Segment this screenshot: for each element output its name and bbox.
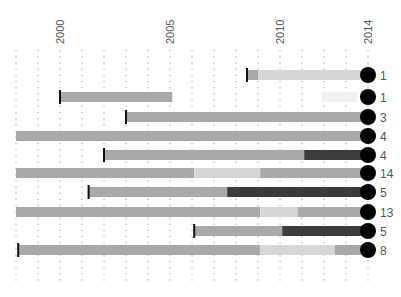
- bar-segment-base: [16, 168, 194, 178]
- timeline-row: 1: [59, 89, 387, 105]
- bar-segment-base: [260, 168, 368, 178]
- end-dot: [360, 147, 376, 163]
- timeline-row: 8: [17, 242, 387, 258]
- end-dot: [360, 223, 376, 239]
- bar-segment-dark: [227, 187, 368, 197]
- start-marker: [125, 110, 127, 124]
- bar-segment-dark: [282, 226, 368, 236]
- end-dot: [360, 242, 376, 258]
- row-count-label: 3: [380, 111, 387, 125]
- year-label-2014: 2014: [362, 20, 374, 44]
- end-dot: [360, 165, 376, 181]
- end-dot: [360, 89, 376, 105]
- bar-segment-dark: [304, 150, 368, 160]
- bar-segment-base: [16, 207, 260, 217]
- timeline-row: 5: [193, 223, 387, 239]
- bar-segment-base: [60, 92, 172, 102]
- start-marker: [246, 68, 248, 82]
- timeline-row: 5: [88, 184, 387, 200]
- row-count-label: 1: [380, 69, 387, 83]
- bar-segment-faint: [322, 92, 357, 102]
- end-dot: [360, 67, 376, 83]
- timeline-row: 13: [16, 204, 394, 220]
- bar-segment-base: [298, 207, 368, 217]
- timeline-row: 4: [103, 147, 387, 163]
- end-dot: [360, 128, 376, 144]
- row-count-label: 5: [380, 225, 387, 239]
- end-dot: [360, 109, 376, 125]
- bar-segment-base: [18, 245, 260, 255]
- timeline-row: 1: [246, 67, 387, 83]
- bar-segment-base: [16, 131, 368, 141]
- start-marker: [59, 90, 61, 104]
- bar-segment-base: [126, 112, 368, 122]
- bar-segment-light: [260, 245, 335, 255]
- bar-segment-base: [194, 226, 282, 236]
- row-count-label: 4: [380, 149, 387, 163]
- row-count-label: 8: [380, 244, 387, 258]
- row-count-label: 1: [380, 91, 387, 105]
- start-marker: [17, 243, 19, 257]
- row-count-label: 13: [380, 206, 394, 220]
- bar-segment-light: [258, 70, 368, 80]
- year-label-2010: 2010: [274, 20, 286, 44]
- timeline-row: 4: [16, 128, 387, 144]
- timeline-row: 14: [16, 165, 394, 181]
- row-count-label: 4: [380, 130, 387, 144]
- bar-segment-light: [194, 168, 260, 178]
- timeline-row: 3: [125, 109, 387, 125]
- bar-segment-base: [104, 150, 304, 160]
- bar-segment-base: [89, 187, 228, 197]
- start-marker: [193, 224, 195, 238]
- year-axis-labels: 2000200520102014: [54, 20, 374, 44]
- end-dot: [360, 184, 376, 200]
- bar-segment-base: [247, 70, 258, 80]
- year-label-2000: 2000: [54, 20, 66, 44]
- year-label-2005: 2005: [164, 20, 176, 44]
- row-count-label: 5: [380, 186, 387, 200]
- row-count-label: 14: [380, 167, 394, 181]
- timeline-chart: 2000200520102014 113441451358: [0, 0, 401, 297]
- bar-segment-light: [260, 207, 297, 217]
- start-marker: [88, 185, 90, 199]
- end-dot: [360, 204, 376, 220]
- timeline-rows: 113441451358: [16, 67, 394, 258]
- start-marker: [103, 148, 105, 162]
